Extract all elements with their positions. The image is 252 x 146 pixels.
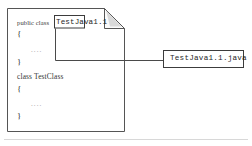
code-body-ellipsis-outer: .... <box>31 47 42 54</box>
code-open-brace-outer: { <box>17 30 21 39</box>
code-keyword-public-class: public class <box>17 20 49 27</box>
code-body-ellipsis-inner: .... <box>31 101 42 108</box>
scan-artifact-line <box>4 139 248 140</box>
code-close-brace-inner: } <box>17 112 21 121</box>
code-open-brace-inner: { <box>17 85 21 94</box>
class-name-highlight-label: TestJava1.1 <box>56 19 107 27</box>
code-close-brace-outer: } <box>17 58 21 67</box>
diagram-canvas: public class TestJava1.1 { .... } class … <box>0 0 252 146</box>
file-name-callout-label: TestJava1.1.java <box>170 55 247 63</box>
code-line-class-testclass: class TestClass <box>17 73 64 80</box>
